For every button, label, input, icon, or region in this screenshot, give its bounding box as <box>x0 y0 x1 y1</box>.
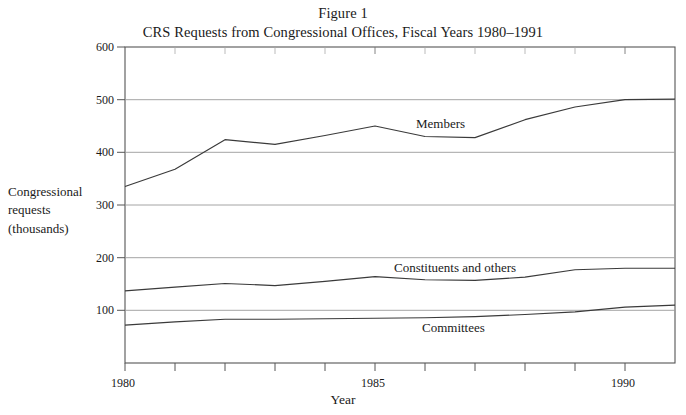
x-axis-ticks <box>125 363 625 371</box>
y-axis-title-line-1: Congressional <box>8 183 118 201</box>
y-tick-label-200: 200 <box>96 251 114 266</box>
series-label-members: Members <box>414 116 467 132</box>
y-tick-label-600: 600 <box>96 40 114 55</box>
y-tick-label-100: 100 <box>96 303 114 318</box>
x-tick-label-1990: 1990 <box>611 376 635 391</box>
y-axis-title-line-2: requests <box>8 201 118 219</box>
x-axis-title: Year <box>0 392 686 408</box>
series-label-committees: Committees <box>420 320 487 336</box>
figure-container: Figure 1 CRS Requests from Congressional… <box>0 0 686 415</box>
y-axis-ticks <box>117 47 125 310</box>
series-label-constituents: Constituents and others <box>392 260 518 276</box>
x-tick-label-1980: 1980 <box>111 376 135 391</box>
y-axis-title: Congressional requests (thousands) <box>8 183 118 238</box>
y-axis-title-line-3: (thousands) <box>8 220 118 238</box>
y-tick-label-400: 400 <box>96 145 114 160</box>
x-tick-label-1985: 1985 <box>361 376 385 391</box>
y-tick-label-500: 500 <box>96 93 114 108</box>
